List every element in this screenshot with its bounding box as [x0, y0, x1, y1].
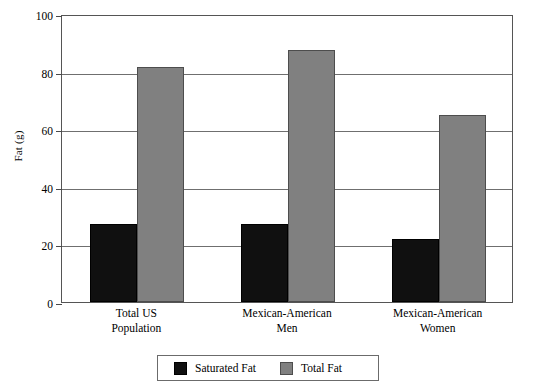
bar-total-fat	[439, 115, 486, 302]
y-axis-title: Fat (g)	[12, 106, 24, 186]
bar-total-fat	[288, 50, 335, 302]
x-axis-label: Mexican-AmericanMen	[207, 306, 367, 336]
x-axis-label: Mexican-AmericanWomen	[358, 306, 518, 336]
gray-square-swatch-icon	[280, 362, 293, 375]
black-square-swatch-icon	[174, 362, 187, 375]
bar-chart: Fat (g) 020406080100 Total USPopulationM…	[0, 0, 533, 390]
x-axis-label: Total USPopulation	[56, 306, 216, 336]
bar-total-fat	[137, 67, 184, 302]
y-axis-tick-label: 40	[13, 183, 53, 195]
y-axis-tick-label: 60	[13, 125, 53, 137]
chart-legend: Saturated Fat Total Fat	[157, 355, 379, 381]
bar-saturated-fat	[90, 224, 137, 302]
y-axis-tick-mark	[56, 304, 62, 305]
bars-group	[62, 16, 512, 302]
y-axis-tick-label: 0	[13, 298, 53, 310]
legend-item-saturated-fat: Saturated Fat	[174, 362, 256, 375]
bar-saturated-fat	[392, 239, 439, 302]
x-axis-category-labels: Total USPopulationMexican-AmericanMenMex…	[61, 306, 513, 348]
bar-saturated-fat	[241, 224, 288, 302]
y-axis-tick-label: 80	[13, 68, 53, 80]
y-axis-tick-label: 100	[13, 10, 53, 22]
plot-area: 020406080100	[61, 15, 513, 303]
legend-label-total-fat: Total Fat	[301, 362, 342, 374]
legend-item-total-fat: Total Fat	[280, 362, 342, 375]
y-axis-tick-label: 20	[13, 240, 53, 252]
legend-label-saturated-fat: Saturated Fat	[195, 362, 256, 374]
